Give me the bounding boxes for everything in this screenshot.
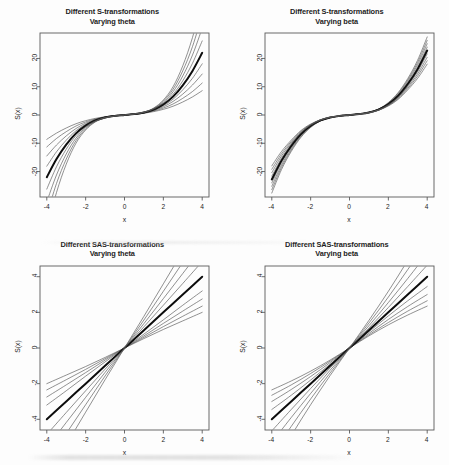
x-tick-label: 4 bbox=[417, 203, 437, 210]
y-tick-label: 0 bbox=[31, 104, 38, 126]
y-tick-label: -2 bbox=[255, 372, 262, 394]
x-tick-label: 0 bbox=[339, 436, 359, 443]
panel-s-beta: Different S-transformations Varying beta… bbox=[225, 0, 449, 233]
y-tick-label: 4 bbox=[255, 265, 262, 287]
x-tick-label: 4 bbox=[192, 436, 212, 443]
x-tick-label: 2 bbox=[378, 203, 398, 210]
x-tick-label: -2 bbox=[76, 203, 96, 210]
y-tick-label: -4 bbox=[31, 407, 38, 429]
x-tick-label: 2 bbox=[153, 436, 173, 443]
y-tick-label: 2 bbox=[31, 300, 38, 322]
x-tick-label: -4 bbox=[261, 436, 281, 443]
x-tick-label: -4 bbox=[37, 203, 57, 210]
x-tick-label: 4 bbox=[417, 436, 437, 443]
y-tick-label: 20 bbox=[255, 47, 262, 69]
y-tick-label: 10 bbox=[31, 75, 38, 97]
x-tick-label: -4 bbox=[261, 203, 281, 210]
panel-s-theta: Different S-transformations Varying thet… bbox=[0, 0, 225, 233]
x-axis-label: x bbox=[0, 216, 249, 223]
panel-sas-beta: Different SAS-transformations Varying be… bbox=[225, 233, 449, 465]
y-axis-label: S(x) bbox=[238, 331, 245, 361]
y-tick-label: -20 bbox=[31, 160, 38, 182]
y-tick-label: 0 bbox=[255, 336, 262, 358]
x-tick-label: 0 bbox=[115, 436, 135, 443]
x-axis-label: x bbox=[225, 216, 449, 223]
y-tick-label: 0 bbox=[31, 336, 38, 358]
x-tick-label: 2 bbox=[378, 436, 398, 443]
y-tick-label: -4 bbox=[255, 407, 262, 429]
y-tick-label: -2 bbox=[31, 372, 38, 394]
y-tick-label: 2 bbox=[255, 300, 262, 322]
x-tick-label: 0 bbox=[115, 203, 135, 210]
x-tick-label: 0 bbox=[339, 203, 359, 210]
figure-canvas: Different S-transformations Varying thet… bbox=[0, 0, 449, 465]
y-tick-label: -10 bbox=[31, 132, 38, 154]
y-tick-label: 20 bbox=[31, 47, 38, 69]
y-axis-label: S(x) bbox=[14, 99, 21, 129]
x-tick-label: -2 bbox=[300, 203, 320, 210]
scan-artifact-middle bbox=[40, 241, 340, 244]
scan-artifact-bottom bbox=[28, 455, 358, 460]
y-tick-label: 4 bbox=[31, 265, 38, 287]
y-tick-label: -10 bbox=[255, 132, 262, 154]
x-tick-label: 2 bbox=[153, 203, 173, 210]
y-tick-label: -20 bbox=[255, 160, 262, 182]
y-tick-label: 0 bbox=[255, 104, 262, 126]
x-tick-label: 4 bbox=[192, 203, 212, 210]
y-axis-label: S(x) bbox=[14, 331, 21, 361]
panel-sas-theta: Different SAS-transformations Varying th… bbox=[0, 233, 225, 465]
x-tick-label: -4 bbox=[37, 436, 57, 443]
y-tick-label: 10 bbox=[255, 75, 262, 97]
x-tick-label: -2 bbox=[300, 436, 320, 443]
y-axis-label: S(x) bbox=[238, 99, 245, 129]
x-tick-label: -2 bbox=[76, 436, 96, 443]
